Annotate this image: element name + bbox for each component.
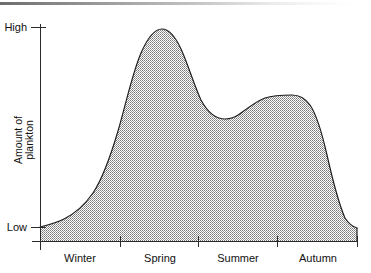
y-axis-low-label: Low xyxy=(7,221,27,233)
y-axis-title: Amount of plankton xyxy=(12,116,35,164)
x-axis-season-labels: Winter Spring Summer Autumn xyxy=(64,252,337,264)
season-label-summer: Summer xyxy=(217,252,259,264)
plot-area xyxy=(40,29,357,241)
chart-canvas: High Low Amount of plankton Winter Sprin… xyxy=(0,0,371,273)
y-axis-title-line2: plankton xyxy=(23,120,35,160)
season-label-spring: Spring xyxy=(144,252,176,264)
y-axis-high-label: High xyxy=(4,21,27,33)
season-label-autumn: Autumn xyxy=(299,252,337,264)
area-fill-plankton xyxy=(40,29,357,241)
season-label-winter: Winter xyxy=(64,252,96,264)
plankton-seasonal-abundance-figure: High Low Amount of plankton Winter Sprin… xyxy=(0,0,371,273)
